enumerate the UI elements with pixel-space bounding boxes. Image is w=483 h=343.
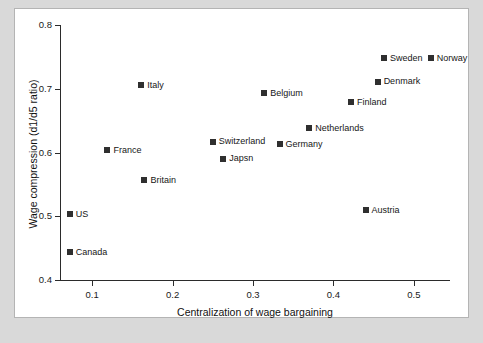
y-axis-line	[60, 25, 61, 281]
point-marker	[138, 82, 144, 88]
point-label: France	[113, 146, 141, 155]
point-label: Canada	[76, 248, 108, 257]
point-marker	[306, 125, 312, 131]
point-label: Finland	[357, 98, 387, 107]
y-axis-title: Wage compression (d1/d5 ratio)	[27, 44, 39, 264]
point-label: Belgium	[270, 89, 303, 98]
point-label: Sweden	[390, 54, 423, 63]
y-tick-mark	[55, 25, 60, 26]
x-tick-mark	[253, 281, 254, 286]
x-axis-line	[60, 280, 450, 281]
y-tick-mark	[55, 216, 60, 217]
x-tick-label: 0.3	[233, 289, 273, 300]
data-point: Germany	[277, 140, 323, 149]
x-tick-label: 0.4	[313, 289, 353, 300]
x-tick-mark	[173, 281, 174, 286]
point-marker	[261, 90, 267, 96]
y-tick-label-text: 0.4	[22, 275, 52, 285]
x-tick-label: 0.2	[153, 289, 193, 300]
point-marker	[67, 211, 73, 217]
point-marker	[104, 147, 110, 153]
x-tick-mark	[92, 281, 93, 286]
y-tick-mark	[55, 153, 60, 154]
point-label: Italy	[147, 81, 164, 90]
data-point: Canada	[67, 248, 108, 257]
data-point: Japsn	[220, 154, 253, 163]
y-tick-mark	[55, 280, 60, 281]
y-tick-label: 0.4	[18, 275, 52, 285]
point-marker	[428, 55, 434, 61]
x-tick-mark	[414, 281, 415, 286]
point-label: Denmark	[384, 77, 421, 86]
scatter-plot: 0.40.50.60.70.8 0.10.20.30.40.5 CanadaUS…	[0, 0, 483, 343]
point-label: Britain	[150, 176, 176, 185]
point-marker	[141, 177, 147, 183]
point-label: Norway	[437, 54, 468, 63]
data-point: Britain	[141, 176, 176, 185]
data-point: Finland	[348, 98, 387, 107]
point-marker	[381, 55, 387, 61]
x-tick-label: 0.5	[394, 289, 434, 300]
point-marker	[277, 141, 283, 147]
point-marker	[210, 139, 216, 145]
x-axis-title: Centralization of wage bargaining	[60, 306, 450, 318]
point-marker	[348, 99, 354, 105]
point-label: Japsn	[229, 154, 253, 163]
x-tick-label: 0.1	[72, 289, 112, 300]
data-point: Denmark	[375, 77, 421, 86]
point-marker	[363, 207, 369, 213]
y-tick-label-text: 0.8	[22, 20, 52, 30]
data-point: Norway	[428, 54, 468, 63]
point-label: US	[76, 210, 89, 219]
point-marker	[67, 249, 73, 255]
point-marker	[220, 156, 226, 162]
data-point: Belgium	[261, 89, 303, 98]
y-tick-mark	[55, 89, 60, 90]
data-point: Switzerland	[210, 137, 266, 146]
point-label: Germany	[286, 140, 323, 149]
data-point: Netherlands	[306, 124, 364, 133]
data-point: Austria	[363, 206, 400, 215]
point-marker	[375, 79, 381, 85]
data-point: Italy	[138, 81, 164, 90]
data-point: France	[104, 146, 141, 155]
point-label: Switzerland	[219, 137, 266, 146]
point-label: Austria	[372, 206, 400, 215]
data-point: Sweden	[381, 54, 423, 63]
x-tick-mark	[333, 281, 334, 286]
y-tick-label: 0.8	[18, 20, 52, 30]
point-label: Netherlands	[315, 124, 364, 133]
data-point: US	[67, 210, 89, 219]
